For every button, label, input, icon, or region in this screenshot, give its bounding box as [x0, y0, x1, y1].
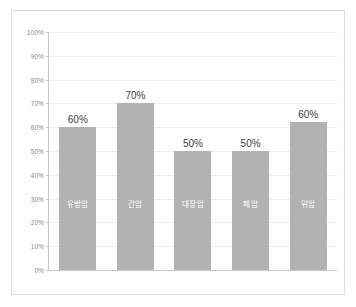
bar-value-label: 60%: [298, 109, 318, 120]
bar-group: 50%폐암: [222, 32, 280, 270]
bar-group: 60%유방암: [49, 32, 107, 270]
bar-category-label: 간암: [128, 198, 142, 209]
chart-container: 100%90%80%70%60%50%40%30%20%10%0% 60%유방암…: [11, 10, 345, 295]
y-axis-tick-label: 10%: [31, 243, 44, 250]
bar-category-label: 위암: [301, 198, 315, 209]
bar-value-label: 70%: [125, 90, 145, 101]
bar-value-label: 50%: [183, 138, 203, 149]
y-axis-tick-label: 90%: [31, 52, 44, 59]
bar[interactable]: [174, 151, 211, 270]
bar[interactable]: [117, 103, 154, 270]
bar-series: 60%유방암70%간암50%대장암50%폐암60%위암: [49, 32, 337, 270]
bar-category-label: 대장암: [182, 198, 204, 209]
y-axis-tick-label: 40%: [31, 171, 44, 178]
y-axis-tick-label: 30%: [31, 195, 44, 202]
y-axis-tick-label: 50%: [31, 148, 44, 155]
y-axis-tick-label: 100%: [27, 29, 44, 36]
bar-group: 70%간암: [107, 32, 165, 270]
y-axis-tick-label: 80%: [31, 76, 44, 83]
bar-group: 50%대장암: [164, 32, 222, 270]
y-axis-tick-label: 60%: [31, 124, 44, 131]
y-axis-tick-label: 0%: [34, 267, 44, 274]
bar-category-label: 폐암: [243, 198, 257, 209]
bar-value-label: 50%: [241, 138, 261, 149]
chart-plot-wrapper: 100%90%80%70%60%50%40%30%20%10%0% 60%유방암…: [12, 11, 344, 294]
y-axis-tick-label: 70%: [31, 100, 44, 107]
y-axis: 100%90%80%70%60%50%40%30%20%10%0%: [12, 32, 47, 270]
bar-group: 60%위암: [279, 32, 337, 270]
bar-value-label: 60%: [68, 114, 88, 125]
bar-category-label: 유방암: [67, 198, 89, 209]
bar[interactable]: [232, 151, 269, 270]
bar[interactable]: [290, 122, 327, 270]
y-axis-tick-label: 20%: [31, 219, 44, 226]
plot-area: 60%유방암70%간암50%대장암50%폐암60%위암: [48, 32, 337, 271]
y-axis-tick-mark: [46, 270, 49, 271]
